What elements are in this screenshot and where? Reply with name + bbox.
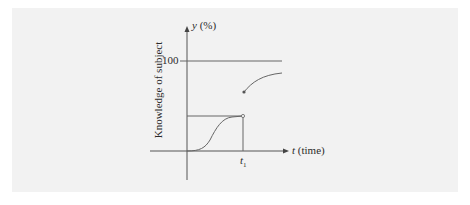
tick-100-label: 100: [162, 54, 179, 66]
t-var: t: [292, 144, 295, 156]
learning-s-curve: [187, 116, 243, 151]
vertical-title: Knowledge of subject: [152, 30, 164, 150]
y-axis-arrow-icon: [185, 26, 190, 32]
t1-label: t1: [240, 154, 247, 169]
t1-open-point: [241, 114, 244, 117]
upper-curve: [244, 73, 282, 92]
knowledge-diagram: [0, 0, 470, 205]
upper-start-point: [242, 90, 245, 93]
y-axis-label: y (%): [192, 19, 216, 31]
t-axis-arrow-icon: [283, 149, 289, 154]
y-var: y: [192, 19, 197, 31]
y-unit: (%): [200, 19, 217, 31]
t-axis-label: t (time): [292, 144, 325, 156]
t1-sub: 1: [243, 161, 247, 169]
t-unit: (time): [298, 144, 325, 156]
